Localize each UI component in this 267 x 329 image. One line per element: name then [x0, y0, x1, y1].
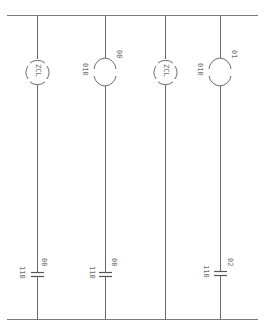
contact-label: 02	[226, 258, 234, 266]
coil-arc-right-bottom-icon	[220, 76, 231, 86]
coil-arc-left-bottom-icon	[209, 76, 220, 86]
coil-arc-right-icon	[220, 58, 231, 69]
rung-4: 010 01 110 02	[196, 15, 238, 320]
contact-label: 00	[110, 258, 118, 266]
coil-prefix: 010	[81, 63, 89, 76]
coil-arc-right-icon	[47, 66, 49, 79]
coil-label: ZCL	[162, 64, 170, 77]
coil-arc-left-bottom-icon	[94, 76, 105, 86]
coil-arc-bottom-icon	[158, 82, 173, 85]
rung-2: 010 00 110 00	[81, 15, 123, 320]
coil-prefix: 010	[196, 63, 204, 76]
coil-label: 00	[115, 50, 123, 58]
zcl-coil[interactable]: ZCL	[154, 60, 177, 84]
coil-arc-right-icon	[105, 58, 116, 69]
coil-arc-left-icon	[94, 58, 105, 69]
coil-arc-top-icon	[158, 60, 173, 63]
coil-arc-left-icon	[209, 58, 220, 69]
contact-prefix: 110	[18, 266, 26, 279]
contact-label: 00	[40, 258, 48, 266]
contact-prefix: 110	[88, 266, 96, 279]
rung-3: ZCL	[154, 15, 177, 320]
coil-arc-right-icon	[175, 66, 177, 79]
contact-prefix: 110	[202, 265, 210, 278]
output-coil[interactable]: 010 00	[81, 50, 123, 86]
coil-label: 01	[230, 50, 238, 58]
coil-arc-top-icon	[30, 60, 45, 63]
output-coil[interactable]: 010 01	[196, 50, 238, 86]
no-contact[interactable]: 110 00	[88, 258, 118, 279]
coil-arc-right-bottom-icon	[105, 76, 116, 86]
no-contact[interactable]: 110 00	[18, 258, 48, 279]
no-contact[interactable]: 110 02	[202, 258, 234, 278]
coil-arc-left-icon	[26, 66, 28, 79]
ladder-diagram: ZCL 110 00 010 00 110 00	[0, 0, 267, 329]
coil-label: ZCL	[34, 64, 42, 77]
zcl-coil[interactable]: ZCL	[26, 60, 49, 84]
coil-arc-left-icon	[154, 66, 156, 79]
rung-1: ZCL 110 00	[18, 15, 49, 320]
coil-arc-bottom-icon	[30, 82, 45, 85]
